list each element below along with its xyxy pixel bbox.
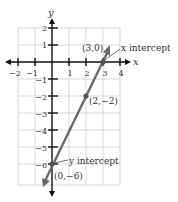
y-tick-label: −4 [35,127,47,136]
y-intercept-label: y intercept [68,156,119,166]
y-tick-label: 1 [42,41,47,50]
y-tick-label: −1 [35,76,47,85]
x-intercept-label: x intercept [121,43,171,53]
y-tick-label: −3 [35,110,47,119]
x-axis-left-arrow-icon [5,59,11,65]
y-axis-down-arrow-icon [49,191,55,197]
point-label-3-0: (3,0) [82,43,103,53]
x-tick-label: 3 [102,69,107,78]
point-label-2-neg2: (2,−2) [89,96,118,106]
x-axis-label: x [133,56,139,67]
x-tick-label: 4 [118,69,123,78]
y-axis-up-arrow-icon [49,18,55,24]
point-0-neg6 [49,161,54,166]
x-tick-label: 2 [84,69,89,78]
y-tick-label: −5 [35,144,47,153]
y-tick-label: 2 [42,24,47,33]
x-axis-right-arrow-icon [125,59,131,65]
y-tick-label: −2 [35,93,47,102]
y-tick-label: −6 [35,161,47,170]
point-3-0 [100,59,105,64]
x-tick-label: −2 [9,69,21,78]
y-axis-label: y [47,7,54,18]
x-tick-label: 1 [67,69,72,78]
graph: x y −2 −1 1 2 3 4 2 1 −1 −2 −3 −4 −5 −6 … [0,0,178,202]
point-label-0-neg6: (0,−6) [54,171,83,181]
point-2-neg2 [83,93,88,98]
